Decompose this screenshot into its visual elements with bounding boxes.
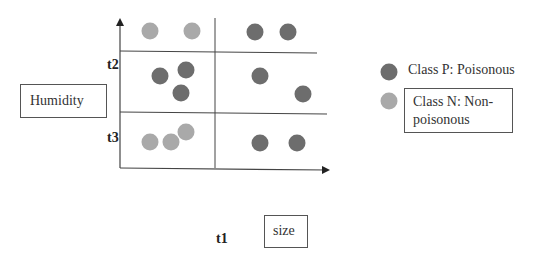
point-poisonous <box>152 68 169 85</box>
point-poisonous <box>280 24 297 41</box>
point-poisonous <box>252 135 269 152</box>
point-poisonous <box>252 68 269 85</box>
legend-label-poisonous: Class P: Poisonous <box>408 61 515 79</box>
legend-swatch-non-poisonous <box>381 93 398 110</box>
legend-label-box-non-poisonous: Class N: Non- poisonous <box>404 88 513 133</box>
legend-label-non-poisonous-line1: Class N: Non- <box>413 93 512 111</box>
x-axis-label-box: size <box>264 215 308 248</box>
legend-swatch-poisonous <box>381 64 398 81</box>
point-non-poisonous <box>178 124 195 141</box>
point-poisonous <box>178 62 195 79</box>
threshold-label-t1: t1 <box>216 231 228 247</box>
point-poisonous <box>247 24 264 41</box>
point-non-poisonous <box>142 134 159 151</box>
point-poisonous <box>289 135 306 152</box>
point-non-poisonous <box>142 23 159 40</box>
threshold-label-t3: t3 <box>107 130 119 146</box>
point-poisonous <box>295 86 312 103</box>
x-axis <box>120 168 328 170</box>
split-line-t2 <box>120 51 317 53</box>
legend-label-non-poisonous-line2: poisonous <box>413 111 512 129</box>
point-non-poisonous <box>163 134 180 151</box>
split-line-t3 <box>120 112 327 114</box>
point-non-poisonous <box>184 23 201 40</box>
point-poisonous <box>173 85 190 102</box>
x-axis-label: size <box>273 223 295 238</box>
threshold-label-t2: t2 <box>107 57 119 73</box>
y-axis-label-box: Humidity <box>20 84 107 118</box>
y-axis-label: Humidity <box>30 93 84 108</box>
